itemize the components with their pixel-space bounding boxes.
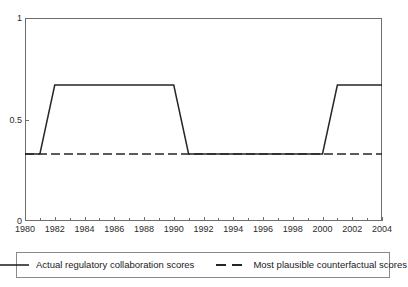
x-axis-tick-label: 1990: [164, 224, 184, 234]
chart-container: 10.50 1980198219841986198819901992199419…: [0, 0, 408, 287]
x-axis-tick: [352, 217, 353, 221]
legend-label-actual: Actual regulatory collaboration scores: [36, 260, 194, 270]
x-axis-tick: [114, 217, 115, 221]
x-axis-tick: [189, 218, 190, 221]
x-axis-tick: [308, 218, 309, 221]
x-axis-tick: [293, 217, 294, 221]
legend-entry-actual: Actual regulatory collaboration scores: [0, 260, 194, 270]
x-axis-tick-label: 2000: [312, 224, 332, 234]
x-axis-tick-label: 1992: [193, 224, 213, 234]
x-axis-tick-label: 1984: [74, 224, 94, 234]
x-axis-tick-label: 1998: [283, 224, 303, 234]
x-axis-tick: [40, 218, 41, 221]
x-axis-tick-label: 1996: [253, 224, 273, 234]
y-axis-tick-label: 0.5: [9, 116, 22, 125]
x-axis-tick-label: 1988: [134, 224, 154, 234]
x-axis-tick: [337, 218, 338, 221]
x-axis-tick: [25, 217, 26, 221]
chart-legend: Actual regulatory collaboration scores M…: [16, 252, 390, 278]
y-axis: 10.50: [0, 0, 22, 287]
x-axis-tick: [218, 218, 219, 221]
x-axis-tick-label: 2004: [372, 224, 392, 234]
x-axis-tick: [55, 217, 56, 221]
x-axis-tick: [204, 217, 205, 221]
x-axis-tick-label: 1986: [104, 224, 124, 234]
x-axis-tick: [70, 218, 71, 221]
x-axis-tick: [99, 218, 100, 221]
y-axis-tick-label: 1: [17, 14, 22, 23]
x-axis-tick: [382, 217, 383, 221]
x-axis-tick: [85, 217, 86, 221]
x-axis-tick: [159, 218, 160, 221]
x-axis-tick: [278, 218, 279, 221]
x-axis-tick: [248, 218, 249, 221]
x-axis-tick: [129, 218, 130, 221]
x-axis-tick: [367, 218, 368, 221]
legend-entry-counterfactual: Most plausible counterfactual scores: [216, 260, 407, 270]
x-axis-tick: [174, 217, 175, 221]
x-axis-tick: [233, 217, 234, 221]
x-axis-tick: [263, 217, 264, 221]
x-axis-tick: [323, 217, 324, 221]
x-axis-tick-label: 1994: [223, 224, 243, 234]
y-axis-tick: [25, 120, 29, 121]
x-axis-tick: [144, 217, 145, 221]
x-axis-tick-label: 1982: [45, 224, 65, 234]
plot-area: [25, 18, 382, 221]
legend-swatch-dashed-icon: [216, 261, 246, 269]
legend-swatch-solid-icon: [0, 261, 29, 269]
x-axis-tick-label: 2002: [342, 224, 362, 234]
x-axis-tick-label: 1980: [15, 224, 35, 234]
legend-label-counterfactual: Most plausible counterfactual scores: [253, 260, 407, 270]
